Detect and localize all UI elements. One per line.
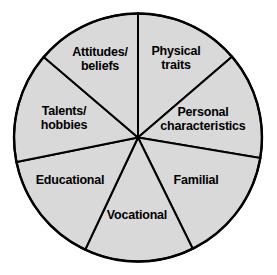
pie-diagram: Physical traitsPersonal characteristicsF… xyxy=(0,0,277,275)
pie-segments-group xyxy=(14,14,262,262)
pie-chart-svg xyxy=(0,0,277,275)
